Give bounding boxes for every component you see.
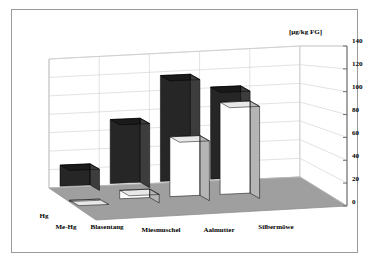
category-label-silbermoewe: Silbermöwe xyxy=(247,223,305,231)
y-tick-0: 0 xyxy=(352,199,356,206)
y-tick-140: 140 xyxy=(352,38,363,45)
y-tick-20: 20 xyxy=(352,176,359,183)
y-tick-100: 100 xyxy=(352,84,363,91)
category-label-blasentang: Blasentang xyxy=(80,223,134,231)
series-label-mehg: Me-Hg xyxy=(49,223,83,231)
y-tick-60: 60 xyxy=(352,130,359,137)
category-label-aalmutter: Aalmutter xyxy=(192,226,246,234)
y-tick-120: 120 xyxy=(352,61,363,68)
category-label-miesmuschel: Miesmuschel xyxy=(130,226,192,234)
bar-hg-miesmuschel xyxy=(110,118,150,188)
bar-mehg-aalmutter xyxy=(170,136,210,201)
chart-frame: [µg/kg FG] 140 120 100 80 60 40 20 0 Hg … xyxy=(11,9,358,253)
bar-mehg-silbermoewe xyxy=(220,101,260,199)
y-tick-40: 40 xyxy=(352,153,359,160)
chart-figure: [µg/kg FG] 140 120 100 80 60 40 20 0 Hg … xyxy=(0,0,370,264)
three-d-chart-canvas xyxy=(12,10,359,254)
y-tick-80: 80 xyxy=(352,107,359,114)
plot-area: [µg/kg FG] 140 120 100 80 60 40 20 0 Hg … xyxy=(12,10,359,254)
y-axis-unit-label: [µg/kg FG] xyxy=(289,28,322,36)
series-label-hg: Hg xyxy=(32,212,56,220)
